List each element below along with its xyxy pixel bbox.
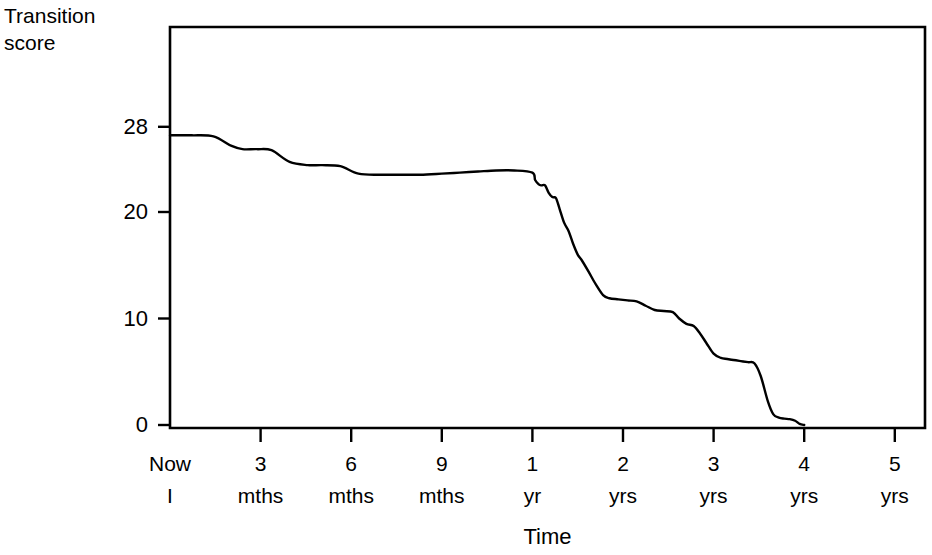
y-tick-label: 20 <box>88 201 148 223</box>
plot-border <box>170 27 925 428</box>
data-series-line <box>170 135 804 425</box>
x-tick-label-secondary: yrs <box>835 485 932 506</box>
y-axis-ticks <box>158 127 170 425</box>
y-tick-label: 28 <box>88 116 148 138</box>
data-series-group <box>170 135 804 425</box>
plot-frame <box>170 27 925 428</box>
x-axis-ticks <box>261 428 895 442</box>
x-axis-title: Time <box>468 526 628 548</box>
x-tick-label-primary: 5 <box>835 453 932 474</box>
y-tick-label: 10 <box>88 308 148 330</box>
y-tick-label: 0 <box>88 414 148 436</box>
chart-root: Transition score 0102028 NowI3mths6mths9… <box>0 0 932 555</box>
